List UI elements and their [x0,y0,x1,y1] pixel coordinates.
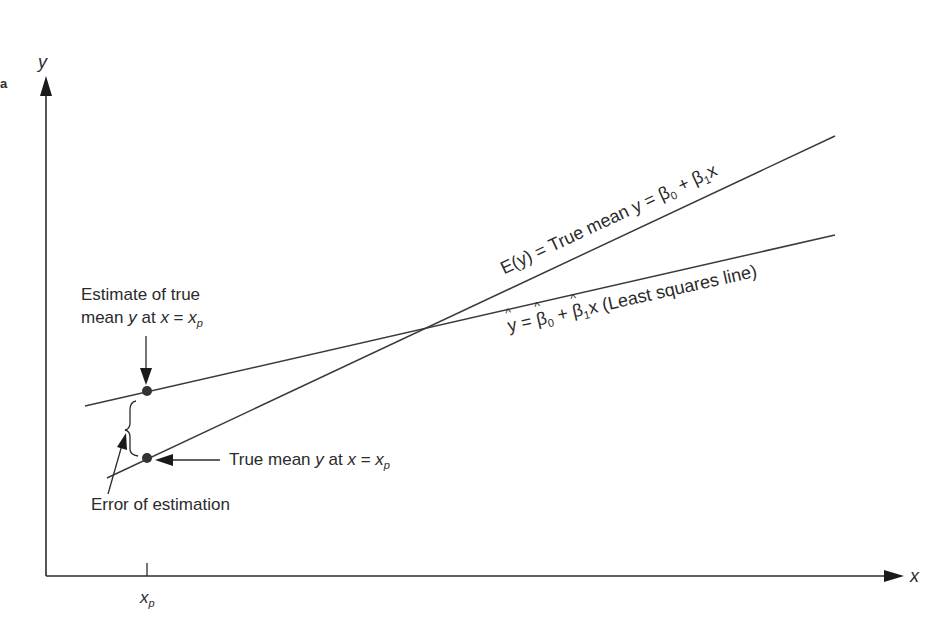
estimate-label-line1: Estimate of true [81,285,200,305]
true-mean-arrow-icon [155,454,173,466]
left-edge-mark: a [0,76,7,91]
tm-eq: = [356,450,375,469]
true-mean-point [142,453,152,463]
est-eq: = [169,308,188,327]
estimate-arrow-icon [140,368,152,385]
xp-tick-label: xp [140,588,155,608]
error-arrow-icon [117,433,127,450]
tm-xp-sub: p [384,459,390,471]
xp-x: x [140,588,149,607]
tm-xp: x [375,450,384,469]
est-y: y [128,308,137,327]
est-mean: mean [81,308,128,327]
est-xp: x [188,308,197,327]
error-arrow-shaft [108,445,122,494]
tm-a: True mean [229,450,315,469]
x-axis-label: x [910,566,919,587]
tm-b: at [324,450,348,469]
est-x: x [160,308,169,327]
xp-sub: p [149,597,155,609]
tm-y: y [315,450,324,469]
x-axis-arrow-icon [884,570,904,582]
true-mean-line [107,136,835,478]
tm-x: x [347,450,356,469]
y-axis-label: y [38,52,47,73]
y-axis-arrow-icon [40,76,52,96]
true-mean-label: True mean y at x = xp [229,450,390,470]
error-brace [125,401,138,456]
error-label: Error of estimation [91,495,230,515]
est-xp-sub: p [197,317,203,329]
estimate-label-line2: mean y at x = xp [81,308,203,328]
est-at: at [137,308,161,327]
estimate-point [142,386,152,396]
